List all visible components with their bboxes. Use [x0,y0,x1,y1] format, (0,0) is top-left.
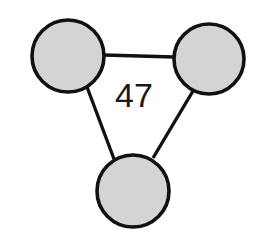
bottom-node[interactable] [97,155,169,227]
center-value-label: 47 [115,76,153,114]
edge-top-left-to-top-right[interactable] [104,55,174,57]
label-layer: 47 [115,76,153,114]
top-right-node[interactable] [174,24,244,94]
top-left-node[interactable] [32,20,104,92]
graph-diagram: 47 [0,0,258,246]
